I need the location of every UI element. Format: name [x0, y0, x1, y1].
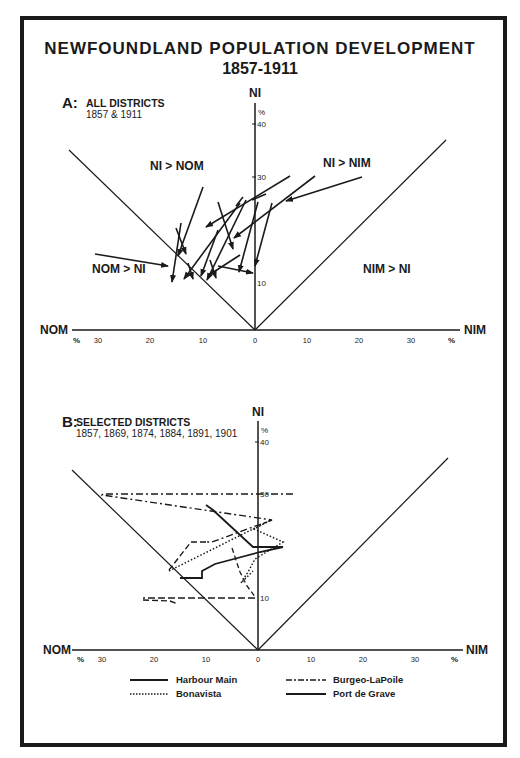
svg-text:20: 20: [150, 655, 158, 664]
panel-b-x-unit-right: %: [451, 655, 458, 664]
panel-b-y-tick-40: 40: [260, 438, 269, 447]
svg-text:10: 10: [303, 336, 311, 345]
svg-text:Burgeo-LaPoile: Burgeo-LaPoile: [333, 674, 403, 685]
svg-text:30: 30: [411, 655, 419, 664]
panel-a: A: ALL DISTRICTS 1857 & 1911 NI % 40 30 …: [40, 86, 486, 345]
panel-b-x-left-label: NOM: [43, 643, 71, 657]
svg-text:10: 10: [199, 336, 207, 345]
svg-text:30: 30: [98, 655, 106, 664]
series-port-de-grave-upper: [169, 542, 206, 570]
legend: Harbour Main Burgeo-LaPoile Bonavista Po…: [130, 674, 403, 699]
panel-a-years: 1857 & 1911: [86, 109, 142, 120]
series-burgeo-lapoile: [102, 494, 293, 542]
region-ni-gt-nom: NI > NOM: [150, 159, 204, 173]
svg-text:10: 10: [202, 655, 210, 664]
panel-a-y-tick-10: 10: [257, 279, 266, 288]
panel-b-years: 1857, 1869, 1874, 1884, 1891, 1901: [76, 428, 238, 439]
panel-b-y-label: NI: [252, 405, 264, 419]
panel-a-x-unit-left: %: [73, 336, 80, 345]
svg-text:30: 30: [407, 336, 415, 345]
legend-item-harbour-main: Harbour Main: [130, 674, 237, 685]
legend-item-burgeo-lapoile: Burgeo-LaPoile: [286, 674, 403, 685]
panel-a-y-tick-30: 30: [257, 173, 266, 182]
svg-text:0: 0: [256, 655, 260, 664]
region-nim-gt-ni: NIM > NI: [363, 262, 411, 276]
svg-text:Port de Grave: Port de Grave: [333, 688, 395, 699]
svg-text:20: 20: [146, 336, 154, 345]
panel-b-y-tick-10: 10: [260, 594, 269, 603]
series-port-de-grave-tail: [143, 600, 178, 604]
panel-a-x-ticks: 30 20 10 0 10 20 30: [94, 336, 415, 345]
panel-a-y-tick-40: 40: [257, 120, 266, 129]
figure-title: NEWFOUNDLAND POPULATION DEVELOPMENT: [44, 39, 475, 58]
panel-b-x-unit-left: %: [77, 655, 84, 664]
panel-a-y-label: NI: [249, 86, 261, 100]
panel-b-x-ticks: 30 20 10 0 10 20 30: [98, 655, 419, 664]
panel-a-x-left-label: NOM: [40, 323, 68, 337]
svg-text:Bonavista: Bonavista: [176, 688, 222, 699]
panel-b-diagonal-nim: [258, 458, 448, 650]
region-ni-gt-nim: NI > NIM: [323, 156, 371, 170]
figure-canvas: NEWFOUNDLAND POPULATION DEVELOPMENT 1857…: [0, 0, 520, 758]
svg-text:0: 0: [253, 336, 257, 345]
figure-years: 1857-1911: [222, 60, 298, 77]
legend-item-port-de-grave: Port de Grave: [286, 688, 395, 699]
panel-a-y-unit: %: [258, 108, 265, 117]
panel-a-subtitle: ALL DISTRICTS: [86, 97, 165, 109]
panel-b: B: SELECTED DISTRICTS 1857, 1869, 1874, …: [43, 405, 488, 664]
svg-text:20: 20: [355, 336, 363, 345]
svg-text:Harbour Main: Harbour Main: [176, 674, 237, 685]
panel-a-x-unit-right: %: [448, 336, 455, 345]
legend-item-bonavista: Bonavista: [130, 688, 222, 699]
panel-b-x-right-label: NIM: [466, 643, 488, 657]
panel-a-label: A:: [62, 94, 78, 111]
svg-text:10: 10: [307, 655, 315, 664]
panel-b-y-unit: %: [261, 426, 268, 435]
region-nom-gt-ni: NOM > NI: [92, 262, 146, 276]
svg-text:20: 20: [359, 655, 367, 664]
svg-text:30: 30: [94, 336, 102, 345]
panel-a-x-right-label: NIM: [464, 323, 486, 337]
panel-b-subtitle: SELECTED DISTRICTS: [76, 416, 190, 428]
